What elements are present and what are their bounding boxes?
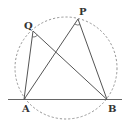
label-a: A [21, 103, 30, 114]
geometry-diagram: A B P Q [0, 0, 129, 134]
label-q: Q [24, 20, 33, 31]
angle-mark-q [32, 35, 37, 37]
label-p: P [79, 6, 87, 17]
circumcircle [15, 17, 117, 119]
segment-aq [24, 31, 33, 100]
diagram-canvas: A B P Q [0, 0, 129, 134]
segment-ap [24, 19, 78, 100]
angle-mark-p [75, 24, 80, 25]
segment-qb [33, 31, 107, 100]
label-b: B [108, 103, 116, 114]
segment-pb [78, 19, 107, 100]
